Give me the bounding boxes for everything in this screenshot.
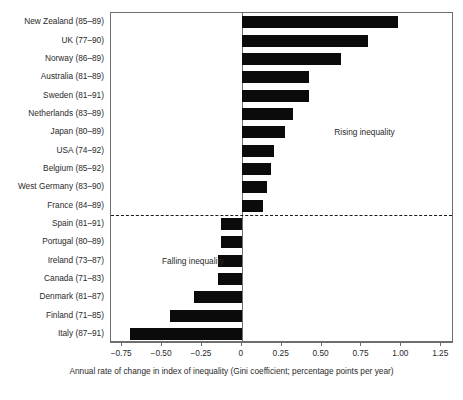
falling-inequality-note: Falling inequality: [162, 256, 224, 266]
x-axis-tick: [241, 342, 242, 346]
category-label: West Germany (83–90): [0, 181, 104, 191]
x-axis-tick: [360, 342, 361, 346]
category-label: New Zealand (85–89): [0, 16, 104, 26]
category-label: Portugal (80–89): [0, 236, 104, 246]
x-axis-tick: [400, 342, 401, 346]
category-label: Australia (81–89): [0, 71, 104, 81]
x-axis-tick-label: 0.50: [313, 348, 329, 358]
bar: [130, 328, 242, 340]
x-axis-tick: [321, 342, 322, 346]
x-axis-tick: [281, 342, 282, 346]
bar: [242, 126, 285, 138]
category-label: Japan (80–89): [0, 126, 104, 136]
chart-figure: New Zealand (85–89)UK (77–90)Norway (86–…: [0, 0, 463, 400]
bar: [221, 218, 242, 230]
category-label: Canada (71–83): [0, 273, 104, 283]
category-label-column: New Zealand (85–89)UK (77–90)Norway (86–…: [0, 12, 104, 342]
category-label: Belgium (85–92): [0, 163, 104, 173]
x-axis-title: Annual rate of change in index of inequa…: [0, 366, 463, 376]
x-axis-tick: [121, 342, 122, 346]
x-axis-tick-label: −0.50: [151, 348, 172, 358]
x-axis-tick-label: 1.25: [432, 348, 448, 358]
bar: [242, 163, 271, 175]
category-label: Italy (87–91): [0, 328, 104, 338]
bar: [170, 310, 242, 322]
bar: [242, 200, 263, 212]
category-label: Sweden (81–91): [0, 90, 104, 100]
bar: [242, 35, 368, 47]
category-label: Netherlands (83–89): [0, 108, 104, 118]
x-axis-tick-label: −0.25: [190, 348, 211, 358]
bar: [242, 53, 341, 65]
bar: [242, 16, 398, 28]
bar: [242, 145, 274, 157]
bar: [242, 181, 268, 193]
x-axis-tick: [161, 342, 162, 346]
bar: [218, 273, 242, 285]
plot-area: Rising inequalityFalling inequality: [110, 12, 453, 342]
category-label: Norway (86–89): [0, 53, 104, 63]
category-label: Finland (71–85): [0, 310, 104, 320]
rising-falling-divider-line: [111, 215, 452, 216]
category-label: Denmark (81–87): [0, 291, 104, 301]
bar: [242, 90, 309, 102]
category-label: USA (74–92): [0, 145, 104, 155]
x-axis-tick-label: −0.75: [111, 348, 132, 358]
x-axis-tick: [201, 342, 202, 346]
x-axis-tick: [440, 342, 441, 346]
bar: [194, 291, 242, 303]
bar: [221, 236, 242, 248]
bar: [242, 71, 309, 83]
x-axis-tick-label: 0.75: [352, 348, 368, 358]
category-label: Ireland (73–87): [0, 255, 104, 265]
rising-inequality-note: Rising inequality: [334, 127, 394, 137]
category-label: Spain (81–91): [0, 218, 104, 228]
category-label: France (84–89): [0, 200, 104, 210]
x-axis-tick-label: 0: [239, 348, 244, 358]
bar: [242, 108, 293, 120]
x-axis-tick-label: 1.00: [392, 348, 408, 358]
x-axis-tick-label: 0.25: [273, 348, 289, 358]
category-label: UK (77–90): [0, 35, 104, 45]
